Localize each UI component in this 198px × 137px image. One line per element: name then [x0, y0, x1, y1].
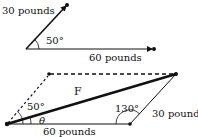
label-60-pounds-top: 60 pounds — [89, 53, 142, 63]
label-angle-50-top: 50° — [46, 36, 64, 46]
endpoint-dot — [152, 47, 156, 51]
corner-dot — [47, 72, 51, 76]
corner-dot — [174, 72, 178, 76]
label-angle-50-bottom: 50° — [27, 102, 45, 112]
label-60-pounds-bottom: 60 pounds — [43, 127, 96, 137]
label-angle-theta: θ — [39, 116, 45, 126]
origin-dot — [5, 122, 9, 126]
angle-arc-50 — [18, 112, 24, 124]
label-30-pounds-bottom: 30 pounds — [152, 109, 198, 119]
force-diagram: 30 pounds 50° 60 pounds F 50° θ 130° 30 … — [0, 0, 198, 137]
corner-dot — [128, 122, 132, 126]
endpoint-dot — [65, 3, 69, 7]
label-resultant-F: F — [74, 86, 82, 97]
label-angle-130: 130° — [115, 104, 139, 114]
resultant-F — [7, 74, 176, 124]
label-30-pounds-top: 30 pounds — [2, 6, 55, 16]
angle-arc-50 — [35, 40, 39, 50]
